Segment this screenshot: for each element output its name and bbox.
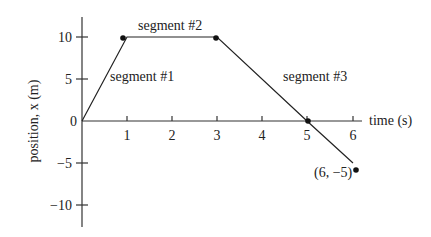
y-tick-label: 10 — [58, 30, 72, 45]
y-tick-label: 5 — [65, 72, 72, 87]
x-tick-label: 1 — [124, 128, 131, 143]
position-time-chart: 1 2 3 4 5 6 10 5 0 −5 −10 time (s) posit… — [0, 0, 431, 237]
segment-3-label: segment #3 — [283, 69, 347, 84]
segment-2-label: segment #2 — [138, 18, 202, 33]
data-point — [120, 35, 126, 41]
y-axis-label: position, x (m) — [26, 79, 42, 162]
x-axis-label: time (s) — [369, 113, 412, 129]
x-ticks — [127, 116, 353, 121]
data-point — [353, 167, 359, 173]
data-point — [213, 35, 219, 41]
position-line — [82, 37, 353, 163]
x-tick-label: 5 — [304, 128, 311, 143]
y-tick-label: 0 — [70, 114, 77, 129]
y-tick-label: −5 — [57, 156, 72, 171]
endpoint-label: (6, −5) — [314, 165, 353, 181]
x-tick-label: 2 — [169, 128, 176, 143]
x-tick-label: 4 — [259, 128, 266, 143]
x-tick-label: 3 — [214, 128, 221, 143]
x-tick-label: 6 — [350, 128, 357, 143]
data-point — [305, 118, 311, 124]
y-tick-label: −10 — [50, 198, 72, 213]
segment-1-label: segment #1 — [110, 69, 174, 84]
